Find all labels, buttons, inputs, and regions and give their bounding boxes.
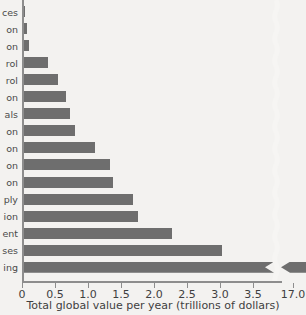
- category-label: ing: [3, 262, 18, 273]
- category-label: als: [5, 109, 18, 120]
- bar-row: [22, 159, 306, 170]
- category-label: ent: [2, 228, 18, 239]
- bar: [22, 228, 172, 239]
- category-label: on: [6, 41, 18, 52]
- y-axis-line: [22, 0, 24, 281]
- category-label: on: [6, 143, 18, 154]
- category-label: ces: [2, 7, 18, 18]
- bar-row: [22, 74, 306, 85]
- category-label: ses: [2, 245, 18, 256]
- category-label: on: [6, 160, 18, 171]
- category-label: rol: [6, 58, 18, 69]
- bar-overflow-segment: [281, 262, 306, 273]
- bar: [22, 245, 222, 256]
- bar-row: [22, 108, 306, 119]
- bar-row: [22, 40, 306, 51]
- bar: [22, 262, 274, 273]
- bar-row: [22, 177, 306, 188]
- x-axis-line: [22, 281, 282, 283]
- bar: [22, 194, 133, 205]
- bar: [22, 159, 110, 170]
- bar-row: [22, 6, 306, 17]
- bar-row: [22, 211, 306, 222]
- bar-row: [22, 228, 306, 239]
- category-label: on: [6, 24, 18, 35]
- bar-row: [22, 125, 306, 136]
- plot-area: cesononrolrolonalsononononplyionentsesin…: [0, 0, 306, 315]
- bar: [22, 57, 48, 68]
- x-axis-title: Total global value per year (trillions o…: [0, 299, 306, 312]
- bar: [22, 211, 138, 222]
- bar-row: [22, 23, 306, 34]
- bar-row: [22, 91, 306, 102]
- bar: [22, 74, 58, 85]
- horizontal-bar-chart: cesononrolrolonalsononononplyionentsesin…: [0, 0, 306, 315]
- bar-row: [22, 142, 306, 153]
- category-label: rol: [6, 75, 18, 86]
- bar: [22, 108, 70, 119]
- category-label: on: [6, 177, 18, 188]
- bar-row: [22, 194, 306, 205]
- bar: [22, 177, 113, 188]
- category-label: ion: [4, 211, 18, 222]
- category-label: ply: [4, 194, 18, 205]
- bar: [22, 125, 75, 136]
- bar: [22, 142, 95, 153]
- bar-row: [22, 262, 306, 273]
- bar: [22, 91, 66, 102]
- bar-row: [22, 245, 306, 256]
- category-label: on: [6, 126, 18, 137]
- bar-row: [22, 57, 306, 68]
- category-label: on: [6, 92, 18, 103]
